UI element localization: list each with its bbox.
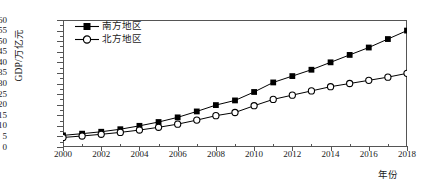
data-point (404, 28, 407, 34)
data-point (213, 113, 219, 119)
y-axis-title: GDP/万亿元 (11, 10, 25, 100)
y-tick-label: 45 (0, 47, 7, 56)
filled-square-icon (74, 21, 100, 32)
data-point (328, 59, 334, 65)
data-point (98, 131, 104, 137)
x-tick-label: 2010 (234, 150, 274, 159)
data-point (232, 98, 238, 104)
data-point (155, 124, 161, 130)
x-tick-label: 2016 (349, 150, 389, 159)
data-point (251, 103, 257, 109)
data-point (289, 73, 295, 79)
legend-label-north: 北方地区 (102, 33, 142, 46)
data-point (79, 133, 85, 139)
x-tick-label: 2014 (311, 150, 351, 159)
x-tick-label: 2002 (81, 150, 121, 159)
y-tick-label: 55 (0, 26, 7, 35)
y-tick-label: 60 (0, 16, 7, 25)
series-line (63, 73, 407, 137)
y-tick-label: 30 (0, 79, 7, 88)
data-point (270, 96, 276, 102)
data-point (366, 45, 372, 51)
data-point (347, 80, 353, 86)
legend-item-south: 南方地区 (74, 20, 142, 33)
legend-item-north: 北方地区 (74, 33, 142, 46)
open-circle-icon (74, 34, 100, 45)
y-tick-label: 10 (0, 121, 7, 130)
y-tick-label: 40 (0, 58, 7, 67)
x-tick-label: 2006 (158, 150, 198, 159)
data-point (385, 74, 391, 80)
data-point (289, 92, 295, 98)
x-tick-label: 2000 (43, 150, 83, 159)
data-point (63, 134, 66, 140)
y-tick-label: 15 (0, 111, 7, 120)
data-point (136, 127, 142, 133)
chart-container: GDP/万亿元 年份 051015202530354045505560 2000… (0, 0, 425, 186)
chart-legend: 南方地区 北方地区 (74, 20, 142, 46)
y-tick-label: 35 (0, 68, 7, 77)
y-tick-label: 25 (0, 90, 7, 99)
data-point (175, 121, 181, 127)
data-point (347, 52, 353, 58)
data-point (404, 70, 407, 76)
legend-label-south: 南方地区 (102, 20, 142, 33)
data-point (309, 67, 315, 73)
data-point (194, 117, 200, 123)
data-point (251, 89, 257, 95)
y-tick-label: 20 (0, 100, 7, 109)
data-point (270, 80, 276, 86)
data-point (232, 109, 238, 115)
x-tick-label: 2004 (119, 150, 159, 159)
data-point (308, 88, 314, 94)
y-tick-label: 50 (0, 37, 7, 46)
data-point (194, 109, 200, 115)
y-tick-label: 0 (0, 143, 7, 152)
y-tick-label: 5 (0, 132, 7, 141)
x-tick-label: 2018 (387, 150, 425, 159)
data-point (117, 129, 123, 135)
data-point (385, 36, 391, 42)
x-tick-label: 2008 (196, 150, 236, 159)
data-point (327, 84, 333, 90)
x-tick-label: 2012 (272, 150, 312, 159)
data-point (175, 114, 181, 120)
data-point (213, 102, 219, 108)
x-axis-title: 年份 (378, 167, 398, 181)
data-point (366, 77, 372, 83)
